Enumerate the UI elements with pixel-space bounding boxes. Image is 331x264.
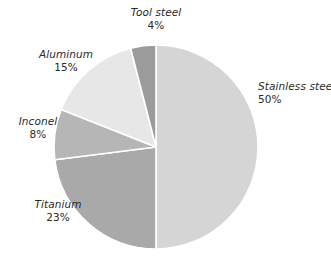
pie-label-aluminum-value: 15% xyxy=(20,61,112,74)
pie-label-aluminum-name: Aluminum xyxy=(20,48,112,61)
pie-label-stainless-steel: Stainless steel 50% xyxy=(258,80,331,106)
pie-label-inconel-name: Inconel xyxy=(2,115,74,128)
pie-label-stainless-steel-name: Stainless steel xyxy=(258,80,331,93)
pie-label-aluminum: Aluminum 15% xyxy=(20,48,112,74)
pie-label-tool-steel: Tool steel 4% xyxy=(112,6,200,32)
pie-label-inconel-value: 8% xyxy=(2,128,74,141)
pie-chart-figure: Tool steel 4% Stainless steel 50% Alumin… xyxy=(0,0,331,264)
pie-label-stainless-steel-value: 50% xyxy=(258,93,331,106)
pie-label-inconel: Inconel 8% xyxy=(2,115,74,141)
pie-label-titanium-name: Titanium xyxy=(14,198,102,211)
pie-slice-stainless-steel xyxy=(156,45,258,249)
pie-label-titanium: Titanium 23% xyxy=(14,198,102,224)
pie-label-titanium-value: 23% xyxy=(14,211,102,224)
pie-label-tool-steel-name: Tool steel xyxy=(112,6,200,19)
pie-label-tool-steel-value: 4% xyxy=(112,19,200,32)
